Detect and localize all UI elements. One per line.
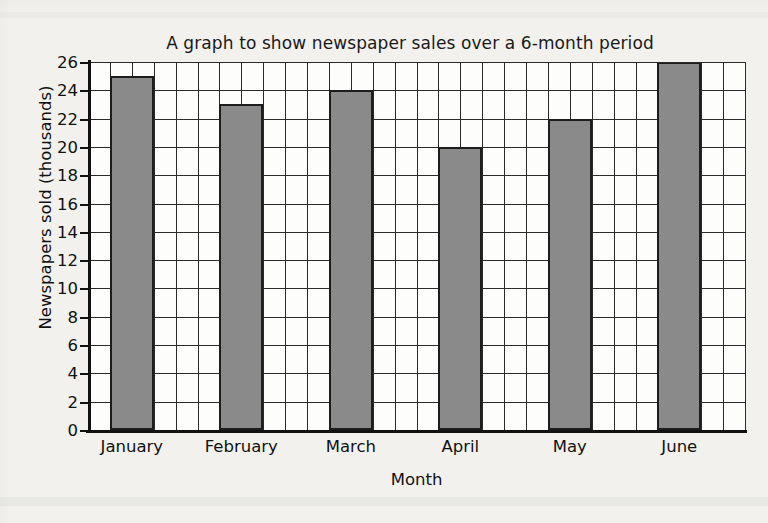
- y-tick-label: 12: [44, 251, 78, 270]
- y-tick-label: 0: [44, 421, 78, 440]
- plot-area: [88, 62, 745, 430]
- x-axis-title: Month: [88, 470, 745, 489]
- x-axis-line: [86, 430, 747, 433]
- bar-february: [219, 104, 263, 430]
- gridline-vertical: [526, 62, 527, 430]
- plot-right-border: [745, 62, 746, 430]
- bar-january: [110, 76, 154, 430]
- gridline-vertical: [263, 62, 264, 430]
- gridline-vertical: [504, 62, 505, 430]
- y-tick-mark: [80, 260, 89, 262]
- y-tick-label: 10: [44, 279, 78, 298]
- y-tick-mark: [80, 430, 89, 432]
- gridline-vertical: [307, 62, 308, 430]
- y-tick-label: 16: [44, 194, 78, 213]
- bar-june: [657, 62, 701, 430]
- gridline-vertical: [723, 62, 724, 430]
- gridline-vertical: [417, 62, 418, 430]
- x-tick-label-january: January: [101, 437, 164, 456]
- y-tick-label: 6: [44, 336, 78, 355]
- y-tick-mark: [80, 204, 89, 206]
- y-tick-mark: [80, 402, 89, 404]
- bar-march: [329, 90, 373, 430]
- y-tick-label: 26: [44, 53, 78, 72]
- plot-top-border: [88, 62, 745, 63]
- gridline-vertical: [285, 62, 286, 430]
- bar-may: [548, 119, 592, 430]
- y-axis-ticks: 02468101214161820222426: [0, 62, 78, 430]
- x-tick-label-march: March: [326, 437, 376, 456]
- y-tick-mark: [80, 175, 89, 177]
- gridline-vertical: [482, 62, 483, 430]
- x-tick-label-may: May: [553, 437, 587, 456]
- y-tick-mark: [80, 232, 89, 234]
- y-tick-mark: [80, 119, 89, 121]
- y-tick-mark: [80, 345, 89, 347]
- x-tick-label-april: April: [441, 437, 479, 456]
- y-tick-label: 22: [44, 109, 78, 128]
- gridlines: [88, 62, 745, 430]
- bar-chart: A graph to show newspaper sales over a 6…: [0, 0, 768, 523]
- gridline-vertical: [154, 62, 155, 430]
- y-tick-mark: [80, 62, 89, 64]
- y-tick-label: 2: [44, 392, 78, 411]
- gridline-vertical: [636, 62, 637, 430]
- gridline-vertical: [701, 62, 702, 430]
- gridline-vertical: [592, 62, 593, 430]
- y-tick-mark: [80, 317, 89, 319]
- chart-title: A graph to show newspaper sales over a 6…: [90, 33, 730, 53]
- gridline-vertical: [395, 62, 396, 430]
- y-tick-label: 20: [44, 137, 78, 156]
- y-tick-label: 18: [44, 166, 78, 185]
- gridline-vertical: [176, 62, 177, 430]
- y-tick-mark: [80, 373, 89, 375]
- x-tick-label-february: February: [205, 437, 278, 456]
- gridline-vertical: [614, 62, 615, 430]
- y-tick-label: 24: [44, 81, 78, 100]
- y-tick-label: 14: [44, 222, 78, 241]
- y-tick-mark: [80, 147, 89, 149]
- gridline-vertical: [373, 62, 374, 430]
- y-tick-label: 4: [44, 364, 78, 383]
- y-tick-mark: [80, 90, 89, 92]
- y-tick-label: 8: [44, 307, 78, 326]
- y-tick-mark: [80, 288, 89, 290]
- gridline-vertical: [198, 62, 199, 430]
- y-axis-line: [88, 60, 91, 432]
- x-tick-label-june: June: [661, 437, 697, 456]
- bar-april: [438, 147, 482, 430]
